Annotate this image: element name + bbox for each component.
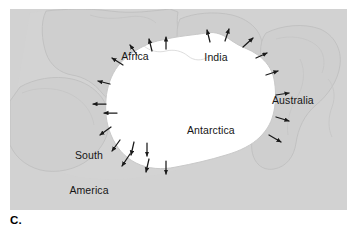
- map-label-south-america: South America: [55, 127, 123, 210]
- paleogeographic-map: Africa India Australia South America Ant…: [10, 9, 347, 210]
- panel-letter-label: C.: [10, 214, 22, 226]
- figure-panel-c: Africa India Australia South America Ant…: [0, 0, 356, 233]
- map-label-south-america-line2: America: [55, 185, 123, 197]
- map-label-india: India: [192, 52, 240, 64]
- map-label-africa: Africa: [105, 51, 165, 63]
- map-label-antarctica: Antarctica: [187, 125, 267, 137]
- map-label-south-america-line1: South: [55, 150, 123, 162]
- map-label-australia: Australia: [272, 95, 338, 107]
